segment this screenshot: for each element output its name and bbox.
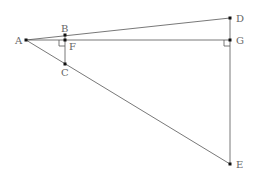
label-D: D	[236, 13, 244, 24]
label-B: B	[61, 23, 68, 34]
point-C	[64, 63, 67, 66]
label-E: E	[236, 159, 243, 170]
label-G: G	[236, 35, 244, 46]
geometry-diagram: A B F C D G E	[0, 0, 259, 178]
segment-AE	[26, 40, 230, 164]
point-D	[229, 17, 232, 20]
point-E	[229, 163, 232, 166]
point-F	[64, 39, 67, 42]
label-C: C	[61, 67, 69, 78]
point-A	[25, 39, 28, 42]
segment-AD	[26, 18, 230, 40]
label-F: F	[69, 41, 76, 52]
label-A: A	[14, 35, 23, 46]
point-G	[229, 39, 232, 42]
